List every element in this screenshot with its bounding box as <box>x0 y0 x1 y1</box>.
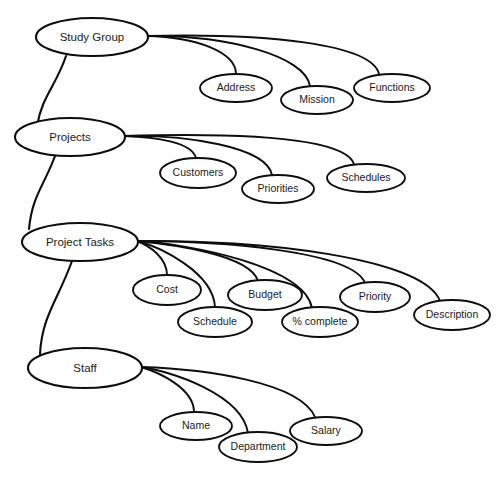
link-projects-to-project-tasks <box>29 156 55 229</box>
attribute-priority-label: Priority <box>359 290 392 302</box>
attribute-description-label: Description <box>426 308 479 320</box>
attribute-priorities[interactable]: Priorities <box>242 175 314 203</box>
attribute-schedule-label: Schedule <box>193 315 237 327</box>
attribute-department[interactable]: Department <box>219 432 297 462</box>
attribute-mission[interactable]: Mission <box>281 86 353 114</box>
nodes-layer: Study GroupAddressMissionFunctionsProjec… <box>15 18 490 462</box>
entity-study-group-label: Study Group <box>60 31 125 43</box>
attribute-salary-label: Salary <box>311 424 342 436</box>
entity-attribute-diagram: Study GroupAddressMissionFunctionsProjec… <box>0 0 501 482</box>
entity-staff[interactable]: Staff <box>28 348 142 388</box>
attribute-name-label: Name <box>182 419 210 431</box>
attribute-address[interactable]: Address <box>200 74 272 102</box>
attribute-description[interactable]: Description <box>414 300 490 330</box>
attribute-percent-complete[interactable]: % complete <box>282 307 358 337</box>
attribute-customers-label: Customers <box>173 166 224 178</box>
attribute-budget[interactable]: Budget <box>228 280 302 310</box>
attribute-mission-label: Mission <box>299 93 335 105</box>
entity-projects-label: Projects <box>49 131 91 143</box>
attribute-priorities-label: Priorities <box>258 182 299 194</box>
attribute-functions[interactable]: Functions <box>354 74 430 102</box>
attribute-priority[interactable]: Priority <box>340 282 410 312</box>
attribute-name[interactable]: Name <box>160 412 232 440</box>
attribute-percent-complete-label: % complete <box>293 315 348 327</box>
entity-project-tasks-label: Project Tasks <box>46 236 114 248</box>
attribute-cost-label: Cost <box>156 283 178 295</box>
link-project-tasks-to-staff <box>40 261 72 354</box>
attribute-customers[interactable]: Customers <box>160 158 236 188</box>
link-staff-salary <box>141 367 315 417</box>
attribute-schedules[interactable]: Schedules <box>327 164 405 192</box>
attribute-cost[interactable]: Cost <box>133 275 201 305</box>
attribute-budget-label: Budget <box>248 288 281 300</box>
attribute-schedules-label: Schedules <box>341 171 390 183</box>
attribute-salary[interactable]: Salary <box>290 417 362 445</box>
link-study-group-functions <box>147 36 379 74</box>
entity-staff-label: Staff <box>73 362 97 374</box>
entity-projects[interactable]: Projects <box>15 118 125 156</box>
attribute-schedule[interactable]: Schedule <box>178 307 252 337</box>
link-study-group-to-projects <box>37 56 66 126</box>
attribute-address-label: Address <box>217 81 256 93</box>
entity-study-group[interactable]: Study Group <box>36 18 148 56</box>
diagram-canvas: Study GroupAddressMissionFunctionsProjec… <box>0 0 501 482</box>
attribute-department-label: Department <box>231 440 286 452</box>
entity-project-tasks[interactable]: Project Tasks <box>22 223 138 261</box>
attribute-functions-label: Functions <box>369 81 415 93</box>
